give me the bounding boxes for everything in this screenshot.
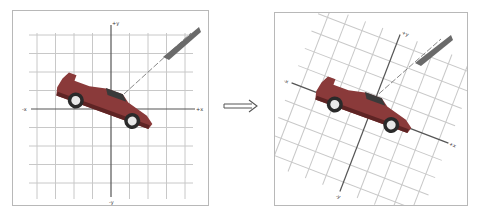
pos-y-label: +y: [112, 20, 119, 27]
original-coordinate-plane: +y -y -x +x: [13, 11, 209, 206]
car-icon: [52, 70, 159, 135]
pos-x-label: +x: [196, 106, 203, 112]
transform-arrow: [223, 99, 259, 113]
rotated-coordinate-plane: +y -y -x +x: [275, 13, 468, 206]
neg-y-label: -y: [335, 193, 342, 201]
neg-x-label: -x: [283, 77, 290, 84]
neg-x-label: -x: [22, 106, 27, 112]
pos-y-label: +y: [401, 29, 410, 38]
original-grid-panel: +y -y -x +x: [12, 10, 209, 206]
smoke-trail-icon: [124, 27, 201, 94]
car-icon: [311, 74, 418, 139]
neg-y-label: -y: [109, 199, 114, 206]
double-right-arrow-icon: [223, 99, 259, 113]
pos-x-label: +x: [448, 141, 457, 149]
rotated-grid-panel: +y -y -x +x: [274, 12, 468, 206]
